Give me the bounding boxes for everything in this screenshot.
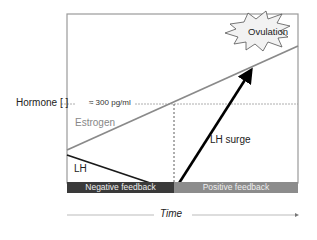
- time-arrow-icon: [295, 213, 299, 217]
- phase-label-positive: Positive feedback: [174, 182, 298, 193]
- lh-surge-label: LH surge: [210, 134, 251, 145]
- ovulation-label: Ovulation: [248, 26, 288, 37]
- phase-label-negative: Negative feedback: [67, 182, 174, 193]
- y-axis-label: Hormone [ ]: [16, 97, 68, 108]
- x-axis-label: Time: [160, 208, 182, 219]
- lh-label: LH: [74, 163, 87, 174]
- threshold-label: ≈ 300 pg/ml: [89, 98, 131, 107]
- estrogen-label: Estrogen: [75, 117, 115, 128]
